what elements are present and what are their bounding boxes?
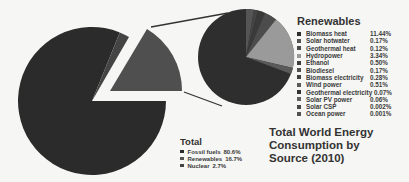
legend-marker [297,68,301,72]
legend-item: Wind power0.51% [297,81,392,88]
total-legend-title: Total [180,136,242,147]
legend-item: Nuclear2.7% [180,162,242,169]
renewables-legend-title: Renewables [297,15,392,27]
legend-marker [297,61,301,65]
legend-item: Biodiesel0.17% [297,66,392,73]
legend-item: Ethanol0.50% [297,59,392,66]
legend-item: Solar hotwater0.17% [297,37,392,44]
legend-marker [297,46,301,50]
legend-item: Renewables16.7% [180,155,242,162]
total-legend: Total Fossil fuels80.6% Renewables16.7% … [180,136,242,169]
chart-title: Total World Energy Consumption by Source… [269,126,399,165]
legend-marker [297,75,301,79]
total-pie [18,27,182,175]
legend-marker [297,32,301,36]
renewables-pie [198,9,294,105]
legend-item: Solar CSP0.002% [297,103,392,110]
legend-item: Biomass electricity0.28% [297,74,392,81]
legend-marker [297,112,301,116]
legend-item: Biomass heat11.44% [297,30,392,37]
legend-marker [180,150,184,154]
legend-marker [180,157,184,161]
renewables-legend: Renewables Biomass heat11.44% Solar hotw… [297,15,392,118]
legend-marker [297,54,301,58]
legend-marker [180,164,184,168]
legend-item: Geothermal heat0.12% [297,45,392,52]
legend-item: Geothermal electricity 0.07% [297,88,392,95]
legend-item: Fossil fuels80.6% [180,148,242,155]
legend-marker [297,90,301,94]
legend-item: Solar PV power0.06% [297,96,392,103]
legend-marker [297,97,301,101]
legend-marker [297,39,301,43]
legend-marker [297,105,301,109]
legend-marker [297,83,301,87]
legend-item: Ocean power0.001% [297,110,392,117]
legend-item: Hydropower3.34% [297,52,392,59]
